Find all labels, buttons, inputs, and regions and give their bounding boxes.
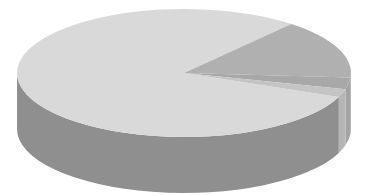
pie-chart-3d	[0, 0, 368, 196]
pie-side-4	[339, 89, 346, 153]
pie-top-faces	[17, 9, 351, 137]
